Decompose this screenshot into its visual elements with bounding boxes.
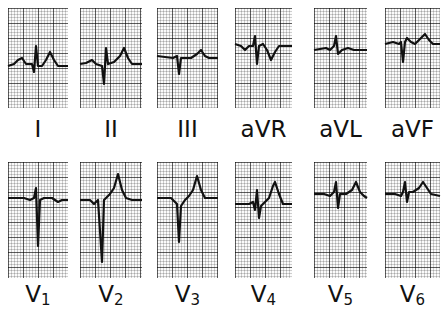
ecg-panel-v6	[385, 162, 440, 278]
ecg-panel-i	[8, 8, 68, 108]
ecg-panel-avf	[385, 8, 440, 108]
lead-label-v4: V4	[235, 283, 292, 308]
ecg-panel-v1	[8, 162, 68, 278]
lead-label-iii: III	[157, 118, 218, 141]
ecg-trace	[385, 8, 440, 108]
ecg-panel-v5	[314, 162, 367, 278]
ecg-panel-avl	[314, 8, 367, 108]
ecg-panel-ii	[80, 8, 142, 108]
lead-label-ii: II	[80, 118, 142, 141]
lead-label-v6: V6	[385, 283, 440, 308]
lead-label-avf: aVF	[385, 118, 440, 141]
ecg-trace	[314, 162, 367, 278]
ecg-trace	[157, 162, 218, 278]
ecg-panel-v4	[235, 162, 292, 278]
ecg-trace	[235, 8, 292, 108]
lead-label-i: I	[8, 118, 68, 141]
lead-label-v1: V1	[8, 283, 68, 308]
lead-label-avr: aVR	[235, 118, 292, 141]
ecg-trace	[235, 162, 292, 278]
ecg-panel-v3	[157, 162, 218, 278]
lead-label-v2: V2	[80, 283, 142, 308]
ecg-trace	[385, 162, 440, 278]
ecg-panel-v2	[80, 162, 142, 278]
lead-label-v5: V5	[314, 283, 367, 308]
ecg-trace	[157, 8, 218, 108]
lead-label-v3: V3	[157, 283, 218, 308]
ecg-panel-iii	[157, 8, 218, 108]
ecg-panel-avr	[235, 8, 292, 108]
ecg-trace	[80, 8, 142, 108]
ecg-trace	[8, 162, 68, 278]
lead-label-avl: aVL	[314, 118, 367, 141]
ecg-trace	[314, 8, 367, 108]
ecg-trace	[8, 8, 68, 108]
ecg-trace	[80, 162, 142, 278]
